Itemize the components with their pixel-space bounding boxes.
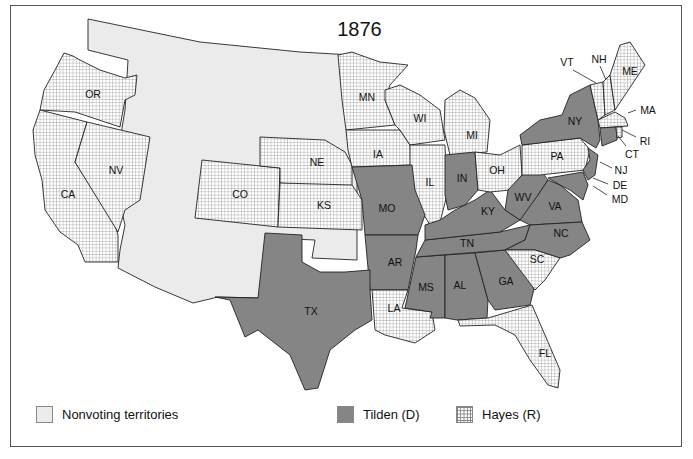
legend-swatch-tilden xyxy=(337,406,354,423)
legend-tilden: Tilden (D) xyxy=(337,406,420,423)
legend-nonvoting: Nonvoting territories xyxy=(36,406,178,423)
svg-text:MS: MS xyxy=(418,281,434,293)
svg-text:MA: MA xyxy=(640,104,656,116)
state-MI xyxy=(444,90,490,155)
svg-text:NC: NC xyxy=(553,227,569,239)
svg-text:IA: IA xyxy=(373,148,383,160)
state-CT xyxy=(600,127,617,146)
svg-text:DE: DE xyxy=(613,179,628,191)
svg-text:MO: MO xyxy=(379,202,396,214)
svg-text:FL: FL xyxy=(539,347,551,359)
legend-swatch-hayes xyxy=(456,406,473,423)
svg-text:LA: LA xyxy=(388,302,401,314)
svg-text:AL: AL xyxy=(454,279,467,291)
svg-text:IN: IN xyxy=(457,172,468,184)
svg-text:SC: SC xyxy=(530,253,545,265)
svg-text:NE: NE xyxy=(310,156,325,168)
legend-hayes: Hayes (R) xyxy=(456,406,541,423)
us-map: OR CA NV CO NE KS MN IA WI IL MI IN OH P… xyxy=(0,0,693,459)
state-RI xyxy=(616,127,622,138)
svg-text:AR: AR xyxy=(388,256,403,268)
svg-text:NV: NV xyxy=(109,164,124,176)
svg-text:OH: OH xyxy=(489,164,505,176)
state-NY xyxy=(520,85,600,148)
svg-text:VA: VA xyxy=(548,200,561,212)
svg-text:CT: CT xyxy=(625,148,640,160)
svg-text:TN: TN xyxy=(460,237,474,249)
svg-text:NJ: NJ xyxy=(615,164,628,176)
svg-text:OR: OR xyxy=(85,88,101,100)
svg-text:RI: RI xyxy=(640,135,651,147)
svg-text:ME: ME xyxy=(622,65,638,77)
svg-text:GA: GA xyxy=(498,275,513,287)
legend-swatch-nonvoting xyxy=(36,406,53,423)
svg-text:TX: TX xyxy=(304,305,317,317)
svg-text:IL: IL xyxy=(426,176,435,188)
svg-text:KS: KS xyxy=(317,199,331,211)
svg-text:CO: CO xyxy=(232,188,248,200)
svg-text:CA: CA xyxy=(61,188,76,200)
svg-text:MI: MI xyxy=(466,129,478,141)
svg-text:NY: NY xyxy=(568,115,583,127)
svg-text:NH: NH xyxy=(591,53,606,65)
svg-text:KY: KY xyxy=(481,205,495,217)
svg-text:MN: MN xyxy=(359,91,375,103)
svg-text:VT: VT xyxy=(560,56,574,68)
svg-text:WI: WI xyxy=(414,112,427,124)
svg-text:PA: PA xyxy=(550,150,563,162)
svg-text:MD: MD xyxy=(612,193,629,205)
svg-text:WV: WV xyxy=(515,191,532,203)
